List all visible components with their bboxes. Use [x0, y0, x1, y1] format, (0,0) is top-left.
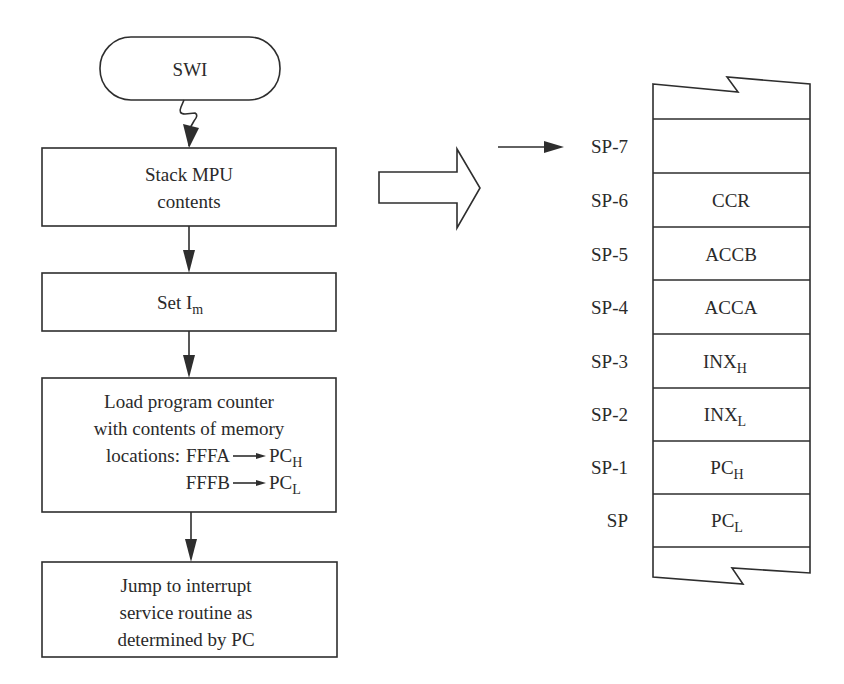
- stack-content: CCR: [712, 190, 750, 211]
- stack-row: SP-6 CCR: [591, 190, 750, 211]
- stack-address: SP-2: [591, 404, 628, 425]
- step-4-line-3: determined by PC: [117, 629, 254, 650]
- flow-arrow-down-icon: [185, 512, 197, 562]
- step-set-interrupt-mask: Set Im: [42, 273, 336, 331]
- stack-address: SP-7: [591, 136, 628, 157]
- stack-pointer-arrow-icon: [498, 141, 564, 153]
- step-4-line-2: service routine as: [120, 602, 253, 623]
- flow-arrow-down-icon: [183, 331, 195, 378]
- stack-row: SP-4 ACCA: [591, 297, 758, 318]
- interrupt-lightning-arrow-icon: [180, 100, 199, 148]
- stack-address: SP-3: [591, 351, 628, 372]
- stack-address: SP-1: [591, 457, 628, 478]
- mapping-2-source: FFFB: [186, 472, 230, 493]
- step-load-program-counter: Load program counter with contents of me…: [42, 378, 336, 512]
- stack-content: ACCB: [705, 244, 757, 265]
- stack-row: SP-7: [591, 136, 628, 157]
- stack-row: SP-2 INXL: [591, 404, 746, 429]
- step-jump-to-isr: Jump to interrupt service routine as det…: [42, 562, 337, 657]
- swi-diagram: SWI Stack MPU contents Set Im: [0, 0, 844, 684]
- stack-row: SP-1 PCH: [591, 457, 744, 482]
- step-3-line-2: with contents of memory: [94, 418, 285, 439]
- start-terminator-swi: SWI: [100, 37, 280, 100]
- stack-row: SP-3 INXH: [591, 351, 747, 376]
- stack-content: INXH: [703, 351, 747, 376]
- start-label: SWI: [173, 59, 208, 80]
- stack-content: PCL: [711, 510, 743, 535]
- stack-address: SP-5: [591, 244, 628, 265]
- flowchart: SWI Stack MPU contents Set Im: [42, 37, 337, 657]
- step-1-line-1: Stack MPU: [145, 164, 233, 185]
- stack-address: SP-6: [591, 190, 628, 211]
- step-1-line-2: contents: [157, 191, 220, 212]
- memory-stack: SP-7 SP-6 CCR SP-5 ACCB SP-4 ACCA SP-3 I…: [498, 77, 810, 584]
- mapping-1-source: locations:FFFA: [106, 445, 230, 466]
- flow-arrow-down-icon: [183, 226, 195, 273]
- stack-address: SP-4: [591, 297, 628, 318]
- step-4-line-1: Jump to interrupt: [121, 575, 253, 596]
- block-arrow-right-icon: [379, 149, 480, 228]
- step-stack-mpu-contents: Stack MPU contents: [42, 148, 336, 226]
- step-3-line-1: Load program counter: [104, 391, 275, 412]
- stack-content: INXL: [704, 404, 746, 429]
- stack-content: ACCA: [705, 297, 758, 318]
- stack-content: PCH: [710, 457, 743, 482]
- stack-row: SP PCL: [607, 510, 743, 535]
- stack-address: SP: [607, 510, 628, 531]
- stack-row-dividers: [653, 119, 810, 547]
- stack-row: SP-5 ACCB: [591, 244, 757, 265]
